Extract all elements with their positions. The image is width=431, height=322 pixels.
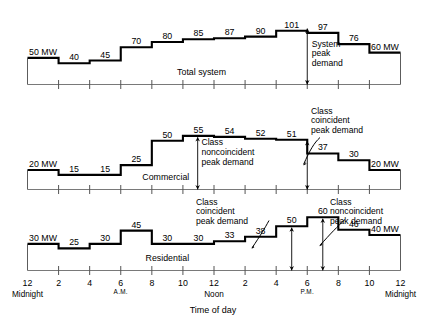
- chart-total-system: 50 MW40457080858790101977660 MWTotal sys…: [28, 20, 401, 89]
- system-peak-demand-label: Systempeakdemand: [312, 39, 343, 68]
- step-value-label: 45: [131, 220, 141, 230]
- chart-residential: 30 MW2530453030333850604640 MWResidentia…: [28, 197, 401, 276]
- step-value-label: 52: [256, 128, 266, 138]
- step-value-label: 30: [100, 233, 110, 243]
- step-value-label: 55: [194, 125, 204, 135]
- step-value-label: 101: [284, 20, 299, 30]
- step-value-label: 76: [349, 33, 359, 43]
- time-tick-label: 12: [23, 278, 33, 288]
- time-tick-label: 12: [209, 278, 219, 288]
- step-value-label: 15: [69, 164, 79, 174]
- step-value-label: 30: [194, 233, 204, 243]
- time-tick-label: 10: [178, 278, 188, 288]
- step-value-label: 15: [100, 164, 110, 174]
- step-value-label: 50: [162, 130, 172, 140]
- series-label-total-system: Total system: [177, 67, 226, 77]
- step-value-label: 25: [131, 154, 141, 164]
- time-axis-labels: 122468101224681012MidnightA.M.NoonP.M.Mi…: [12, 278, 417, 299]
- step-value-label: 45: [100, 50, 110, 60]
- residential-noncoincident-peak-demand-label: Classnoncoincidentpeak demand: [330, 197, 384, 226]
- step-value-label: 97: [318, 22, 328, 32]
- time-marker-label: Noon: [204, 290, 224, 299]
- time-tick-label: 6: [305, 278, 310, 288]
- time-tick-label: 4: [274, 278, 279, 288]
- step-value-label: 37: [318, 142, 328, 152]
- step-value-label: 33: [225, 230, 235, 240]
- time-tick-label: 2: [56, 278, 61, 288]
- time-marker-label: A.M.: [114, 288, 128, 295]
- step-value-label: 51: [287, 129, 297, 139]
- load-curve-figure: 50 MW40457080858790101977660 MWTotal sys…: [0, 0, 431, 322]
- step-value-label: 90: [256, 26, 266, 36]
- class-noncoincident-peak-demand-label: Classnoncoincidentpeak demand: [201, 137, 255, 166]
- time-tick-label: 4: [87, 278, 92, 288]
- step-value-label: 70: [131, 36, 141, 46]
- time-tick-label: 6: [118, 278, 123, 288]
- step-value-label: 50: [287, 215, 297, 225]
- endpoint-value-label: 60 MW: [371, 42, 400, 52]
- load-curve-total-system: [28, 31, 401, 63]
- time-tick-label: 12: [396, 278, 406, 288]
- residential-coincident-peak-demand-label: Classcoincidentpeak demand: [196, 197, 248, 226]
- time-marker-label: P.M.: [300, 288, 314, 295]
- time-tick-label: 8: [336, 278, 341, 288]
- time-tick-label: 8: [149, 278, 154, 288]
- time-marker-label: Midnight: [385, 290, 417, 299]
- time-marker-label: Midnight: [12, 290, 44, 299]
- endpoint-value-label: 50 MW: [29, 47, 58, 57]
- step-value-label: 87: [225, 27, 235, 37]
- step-value-label: 40: [69, 52, 79, 62]
- chart-commercial: 20 MW1515255055545251373020 MWCommercial…: [28, 106, 401, 195]
- residential-coincident-leader-line: [252, 221, 269, 249]
- step-value-label: 30: [349, 149, 359, 159]
- series-label-commercial: Commercial: [142, 172, 189, 182]
- time-tick-label: 2: [243, 278, 248, 288]
- class-coincident-peak-demand-label: Classcoincidentpeak demand: [311, 106, 363, 135]
- step-value-label: 54: [225, 126, 235, 136]
- step-value-label: 30: [162, 233, 172, 243]
- step-value-label: 60: [318, 206, 328, 216]
- step-value-label: 85: [194, 28, 204, 38]
- step-value-label: 25: [69, 237, 79, 247]
- endpoint-value-label: 30 MW: [29, 233, 58, 243]
- series-label-residential: Residential: [146, 253, 190, 263]
- axis-title: Time of day: [190, 305, 237, 315]
- endpoint-value-label: 20 MW: [29, 159, 58, 169]
- endpoint-value-label: 20 MW: [371, 159, 400, 169]
- step-value-label: 80: [162, 31, 172, 41]
- time-tick-label: 10: [365, 278, 375, 288]
